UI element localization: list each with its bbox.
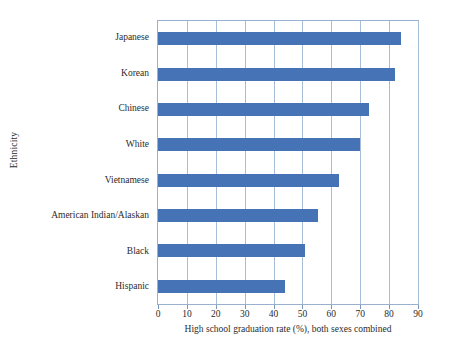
category-label: Korean	[26, 56, 154, 92]
bar	[158, 32, 401, 45]
x-tick-label: 30	[240, 307, 250, 321]
category-label: Hispanic	[26, 269, 154, 305]
x-axis-title: High school graduation rate (%), both se…	[157, 324, 419, 334]
bar	[158, 244, 305, 257]
x-tick-label: 80	[384, 307, 394, 321]
bar	[158, 280, 285, 293]
x-tick-label: 70	[355, 307, 365, 321]
x-tick-label: 20	[211, 307, 221, 321]
bar-row	[158, 127, 418, 162]
bar-row	[158, 56, 418, 91]
x-axis-tick-labels: 0102030405060708090	[157, 307, 419, 323]
bar	[158, 68, 395, 81]
bar-row	[158, 269, 418, 304]
bar	[158, 209, 318, 222]
gridline	[418, 21, 419, 304]
x-tick-label: 0	[156, 307, 161, 321]
bar-row	[158, 233, 418, 268]
bars-layer	[158, 21, 418, 304]
x-tick-label: 10	[182, 307, 192, 321]
bar	[158, 174, 339, 187]
bar-row	[158, 21, 418, 56]
x-tick-label: 50	[298, 307, 308, 321]
gridline	[389, 21, 390, 304]
gridline	[360, 21, 361, 304]
gridline	[331, 21, 332, 304]
bar-chart: Ethnicity JapaneseKoreanChineseWhiteViet…	[0, 0, 451, 355]
bar	[158, 138, 360, 151]
category-label: Black	[26, 234, 154, 270]
bar	[158, 103, 369, 116]
category-label: Vietnamese	[26, 163, 154, 199]
y-axis-title-label: Ethnicity	[9, 132, 19, 169]
gridline	[274, 21, 275, 304]
bar-row	[158, 92, 418, 127]
y-axis-title: Ethnicity	[0, 0, 28, 300]
x-tick-label: 90	[413, 307, 423, 321]
gridline	[216, 21, 217, 304]
category-label: White	[26, 127, 154, 163]
category-label: American Indian/Alaskan	[26, 198, 154, 234]
y-axis-category-labels: JapaneseKoreanChineseWhiteVietnameseAmer…	[26, 20, 154, 305]
gridline	[245, 21, 246, 304]
x-tick-label: 40	[269, 307, 279, 321]
category-label: Chinese	[26, 91, 154, 127]
category-label: Japanese	[26, 20, 154, 56]
gridline	[187, 21, 188, 304]
bar-row	[158, 163, 418, 198]
x-tick-label: 60	[327, 307, 337, 321]
gridline	[302, 21, 303, 304]
plot-area	[157, 20, 419, 305]
bar-row	[158, 198, 418, 233]
